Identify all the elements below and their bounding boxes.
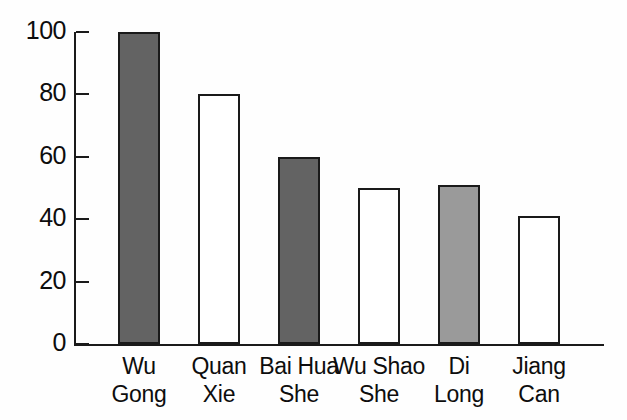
bar — [438, 185, 480, 344]
category-label: JiangCan — [479, 352, 599, 408]
bar — [198, 94, 240, 344]
category-label-line1: Jiang — [479, 352, 599, 380]
bar-chart-plot: 020406080100 WuGongQuanXieBai HuaSheWu S… — [0, 0, 627, 420]
bar — [358, 188, 400, 344]
bar — [518, 216, 560, 344]
chart-page: 020406080100 WuGongQuanXieBai HuaSheWu S… — [0, 0, 627, 420]
bar — [118, 32, 160, 344]
category-label-line2: Can — [479, 380, 599, 408]
bar — [278, 157, 320, 344]
